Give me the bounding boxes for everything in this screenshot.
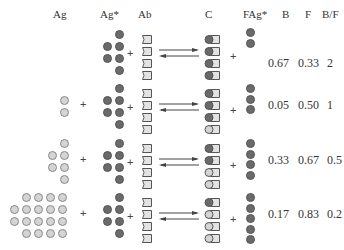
header-ag: Ag [53,8,66,20]
antibody [142,108,152,117]
unlabeled-antigen [22,205,31,214]
free-value: 0.33 [298,56,319,71]
complex-labeled [204,66,220,75]
plus-sign: + [80,153,86,165]
free-labeled-antigen [246,225,255,234]
complex-labeled [204,108,220,117]
plus-sign: + [230,159,236,171]
unlabeled-antigen [60,163,69,172]
free-labeled-antigen [246,95,255,104]
unlabeled-antigen [60,175,69,184]
free-labeled-antigen [246,171,255,180]
complex-labeled [204,96,220,105]
free-value: 0.50 [298,98,319,113]
unlabeled-antigen [60,108,69,117]
antibody [142,120,152,129]
labeled-antigen [115,151,124,160]
labeled-antigen [115,66,124,75]
unlabeled-antigen [58,193,67,202]
labeled-antigen [115,229,124,238]
bound-value: 0.05 [268,98,289,113]
free-labeled-antigen [246,193,255,202]
labeled-antigen [103,108,112,117]
unlabeled-antigen [48,151,57,160]
labeled-antigen [103,163,112,172]
unlabeled-antigen [34,193,43,202]
unlabeled-antigen [58,217,67,226]
plus-sign: + [80,207,86,219]
plus-sign: + [80,98,86,110]
free-labeled-antigen [246,204,255,213]
equilibrium-arrows [158,45,200,63]
labeled-antigen [115,139,124,148]
plus-sign: + [127,156,133,168]
labeled-antigen [115,84,124,93]
antibody [142,42,152,51]
header-bound-free-ratio: B/F [322,8,339,20]
header-ab: Ab [138,8,151,20]
header-free: F [305,8,311,20]
unlabeled-antigen [46,217,55,226]
complex-labeled [204,151,220,160]
free-labeled-antigen [246,139,255,148]
header-free-ag-star: FAg* [243,8,267,20]
reaction-row: ++0.670.332 [0,30,344,78]
antibody [142,151,152,160]
antibody [142,96,152,105]
labeled-antigen [115,217,124,226]
unlabeled-antigen [58,229,67,238]
unlabeled-antigen [60,139,69,148]
bound-value: 0.67 [268,56,289,71]
complex-labeled [204,139,220,148]
unlabeled-antigen [22,193,31,202]
labeled-antigen [115,30,124,39]
labeled-antigen [115,54,124,63]
free-labeled-antigen [246,28,255,37]
antibody [142,229,152,238]
labeled-antigen [115,108,124,117]
equilibrium-arrows [158,99,200,117]
unlabeled-antigen [58,205,67,214]
unlabeled-antigen [60,96,69,105]
unlabeled-antigen [46,193,55,202]
free-value: 0.67 [298,153,319,168]
antibody [142,139,152,148]
free-value: 0.83 [298,207,319,222]
labeled-antigen [103,42,112,51]
complex-unlabeled [204,175,220,184]
labeled-antigen [115,120,124,129]
complex-labeled [204,54,220,63]
plus-sign: + [230,104,236,116]
labeled-antigen [103,96,112,105]
plus-sign: + [230,50,236,62]
bound-free-ratio-value: 2 [327,56,333,71]
bound-free-ratio-value: 1 [327,98,333,113]
free-labeled-antigen [246,84,255,93]
free-labeled-antigen [246,160,255,169]
unlabeled-antigen [46,229,55,238]
free-labeled-antigen [246,39,255,48]
complex-labeled [204,84,220,93]
antibody [142,205,152,214]
unlabeled-antigen [46,205,55,214]
antibody [142,163,152,172]
bound-value: 0.33 [268,153,289,168]
complex-unlabeled [204,229,220,238]
header-complex: C [205,8,212,20]
complex-unlabeled [204,163,220,172]
labeled-antigen [103,217,112,226]
bound-free-ratio-value: 0.2 [327,207,342,222]
plus-sign: + [127,210,133,222]
antibody [142,66,152,75]
free-labeled-antigen [246,235,255,244]
free-labeled-antigen [246,150,255,159]
free-labeled-antigen [246,214,255,223]
unlabeled-antigen [48,163,57,172]
reaction-row: +++0.050.501 [0,84,344,132]
bound-value: 0.17 [268,207,289,222]
unlabeled-antigen [34,205,43,214]
unlabeled-antigen [34,229,43,238]
antibody [142,30,152,39]
complex-labeled [204,193,220,202]
bound-free-ratio-value: 0.5 [327,153,342,168]
